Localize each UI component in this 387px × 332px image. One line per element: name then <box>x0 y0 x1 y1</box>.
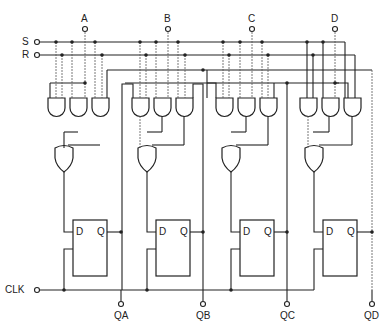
ff-c-d-label: D <box>243 227 250 237</box>
input-r-label: R <box>22 50 29 60</box>
circuit-diagram: S R CLK A B C D D Q D Q D Q D Q QA QB QC… <box>0 0 387 332</box>
input-c-label: C <box>248 14 255 24</box>
ff-a-d-label: D <box>76 227 83 237</box>
output-qd-label: QD <box>364 311 379 321</box>
input-clk-label: CLK <box>5 285 24 295</box>
ff-d-d-label: D <box>326 227 333 237</box>
output-qb-label: QB <box>196 311 210 321</box>
stage-a-gates <box>48 32 109 230</box>
output-qa-label: QA <box>114 311 128 321</box>
input-b-label: B <box>164 14 171 24</box>
input-a-label: A <box>81 14 88 24</box>
ff-c-q-label: Q <box>264 227 272 237</box>
circuit-schematic <box>0 0 387 332</box>
ff-b-d-label: D <box>159 227 166 237</box>
output-qc-label: QC <box>280 311 295 321</box>
input-s-label: S <box>22 37 29 47</box>
ff-b-q-label: Q <box>180 227 188 237</box>
ff-d-q-label: Q <box>347 227 355 237</box>
ff-a-q-label: Q <box>97 227 105 237</box>
input-d-label: D <box>331 14 338 24</box>
